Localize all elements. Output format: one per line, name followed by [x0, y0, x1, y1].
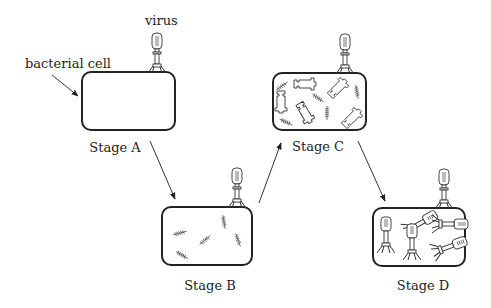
stage-b-cell	[162, 168, 252, 265]
stage-c-cell	[273, 34, 366, 130]
stage-c-label: Stage C	[292, 139, 344, 154]
stage-d-label: Stage D	[397, 278, 449, 293]
virus-icon	[336, 34, 354, 74]
virus-lifecycle-diagram: virus bacterial cell Stage A Stage B Sta…	[0, 0, 491, 308]
arrow-b-to-c	[259, 143, 281, 203]
stage-a-label: Stage A	[89, 140, 141, 155]
virus-label: virus	[144, 13, 178, 28]
stage-d-cell	[373, 169, 469, 266]
arrow-c-to-d	[358, 141, 385, 201]
virus-icon	[435, 169, 453, 209]
stage-a-cell	[82, 33, 175, 130]
arrow-a-to-b	[150, 141, 175, 199]
stage-b-label: Stage B	[184, 278, 236, 293]
bacterial-cell-pointer-arrow	[52, 75, 78, 96]
virus-icon	[228, 168, 246, 208]
virus-icon	[148, 33, 166, 73]
bacterial-cell-label: bacterial cell	[25, 56, 111, 71]
